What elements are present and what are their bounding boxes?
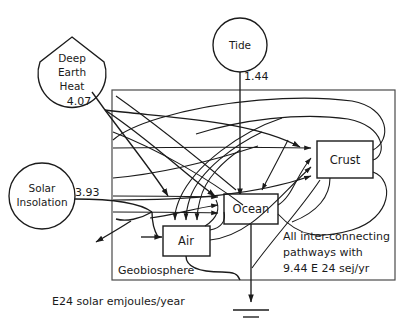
deep-earth-heat-label-line-2: Earth [58, 66, 86, 78]
deep-earth-heat-label-line-1: Deep [58, 52, 86, 64]
annotation-line-3: 9.44 E 24 sej/yr [283, 262, 370, 275]
annotation-line-1: All inter-connecting [283, 230, 390, 243]
path-solar-albedo-out [96, 221, 131, 242]
solar-insolation-label-line-1: Solar [29, 182, 56, 194]
tide-value: 1.44 [244, 70, 269, 83]
path-solar-to-air-curve [152, 212, 158, 237]
ocean-label: Ocean [233, 202, 270, 216]
path-deep-earth-heat-to-crust [105, 110, 300, 147]
tide-label: Tide [228, 39, 251, 51]
deep-earth-heat-value: 4.07 [67, 95, 92, 108]
path-air-to-ocean [150, 205, 218, 218]
annotation-line-2: pathways with [283, 246, 363, 259]
geobiosphere-label: Geobiosphere [118, 264, 195, 277]
deep-earth-heat-label-line-3: Heat [60, 80, 85, 92]
emergy-diagram: Geobiosphere Deep Earth Heat 4.07 Tide 1… [0, 0, 413, 331]
solar-split-node [116, 212, 152, 220]
path-into-ocean-3 [113, 212, 218, 213]
figure-caption: E24 solar emjoules/year [52, 295, 185, 308]
path-into-ocean-1 [113, 196, 218, 197]
solar-insolation-label-line-2: Insolation [16, 196, 67, 208]
diagram-canvas: Geobiosphere Deep Earth Heat 4.07 Tide 1… [0, 0, 413, 331]
path-into-crust-1 [113, 147, 311, 148]
crust-label: Crust [330, 153, 361, 167]
path-solar-trunk [75, 199, 152, 212]
solar-insolation-value: 3.93 [75, 186, 100, 199]
path-crust-down-left [292, 178, 330, 222]
air-label: Air [178, 234, 194, 248]
